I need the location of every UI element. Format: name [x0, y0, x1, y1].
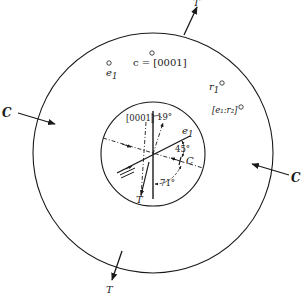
tension-label-inner: T	[136, 194, 144, 205]
angle-45-label: 45°	[175, 144, 190, 154]
svg-text:[e₁:r₂]: [e₁:r₂]	[212, 105, 238, 115]
svg-text:e1: e1	[106, 67, 117, 81]
stereographic-diagram: e1 c = [0001] r1 [e₁:r₂] T T C C [0001] …	[0, 0, 305, 305]
svg-text:T: T	[193, 0, 201, 8]
angle-19-label: 19°	[157, 112, 172, 122]
compression-arrow-left: C	[2, 106, 55, 124]
compression-arrow-right: C	[252, 164, 301, 185]
svg-text:C: C	[291, 171, 301, 185]
angle-71-label: 71°	[160, 178, 175, 188]
tension-arrow-bottom: T	[106, 251, 122, 295]
tension-arrow-top: T	[184, 0, 201, 35]
svg-text:c = [0001]: c = [0001]	[133, 57, 187, 68]
marker-e1-outer: e1	[106, 61, 117, 81]
compression-label-inner: C	[186, 155, 194, 166]
svg-text:C: C	[2, 106, 12, 120]
c-axis-label: [0001]	[126, 113, 154, 123]
marker-e1-r2: [e₁:r₂]	[212, 105, 243, 115]
e1-plane-label: e1	[182, 125, 193, 139]
marker-r1: r1	[209, 81, 224, 95]
svg-text:r1: r1	[209, 81, 219, 95]
marker-c-axis: c = [0001]	[133, 51, 187, 68]
svg-text:T: T	[106, 284, 114, 295]
